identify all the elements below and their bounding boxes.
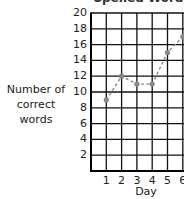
data-point	[150, 82, 155, 87]
plot-area	[0, 0, 184, 199]
data-point	[104, 97, 109, 102]
data-point	[119, 74, 124, 79]
data-point	[165, 50, 170, 55]
series-line	[106, 37, 183, 100]
data-point	[180, 34, 184, 39]
data-point	[134, 82, 139, 87]
